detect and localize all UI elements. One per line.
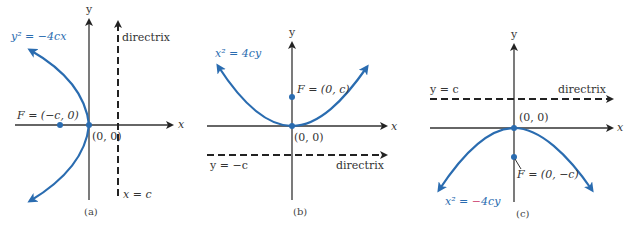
caption: (a) bbox=[84, 206, 98, 217]
focus-point bbox=[289, 94, 295, 100]
parabola-curve-left bbox=[218, 66, 292, 126]
x-axis-label: x bbox=[391, 120, 398, 133]
parabola-curve-lower bbox=[30, 125, 89, 201]
equation-suffix: 4cy bbox=[480, 195, 501, 208]
focus-point bbox=[511, 154, 517, 160]
focus-label: F = (0, c) bbox=[296, 83, 350, 96]
vertex-label: (0, 0) bbox=[519, 111, 549, 124]
panel-c: x y y = c directrix x² = −4cy F = (0, −c… bbox=[429, 28, 624, 219]
equation-prefix: x² = bbox=[445, 195, 472, 208]
equation-label: y² = −4cx bbox=[10, 30, 67, 43]
vertex-label: (0, 0) bbox=[294, 131, 324, 144]
panel-b: x y y = −c directrix x² = 4cy F = (0, c)… bbox=[207, 26, 398, 217]
directrix-label: directrix bbox=[122, 31, 171, 44]
parabola-diagrams: x y directrix x = c y² = −4cx F = (−c, 0… bbox=[0, 0, 634, 235]
vertex-point bbox=[86, 122, 92, 128]
vertex-point bbox=[289, 123, 295, 129]
equation-label: x² = 4cy bbox=[215, 47, 262, 60]
vertex-label: (0, 0) bbox=[92, 130, 122, 143]
x-axis-label: x bbox=[178, 118, 185, 131]
y-axis-label: y bbox=[85, 3, 93, 16]
focus-label: F = (0, −c) bbox=[516, 168, 579, 181]
directrix-equation: y = c bbox=[429, 83, 459, 96]
focus-label: F = (−c, 0) bbox=[16, 109, 79, 122]
equation-minus: − bbox=[472, 195, 481, 208]
equation-label: x² = −4cy bbox=[445, 195, 501, 208]
y-axis-label: y bbox=[288, 26, 296, 39]
directrix-label: directrix bbox=[558, 83, 607, 96]
directrix-label: directrix bbox=[336, 159, 385, 172]
directrix-equation: x = c bbox=[123, 188, 152, 201]
panel-a: x y directrix x = c y² = −4cx F = (−c, 0… bbox=[10, 3, 185, 217]
caption: (c) bbox=[516, 208, 530, 219]
parabola-curve-right bbox=[292, 67, 367, 126]
caption: (b) bbox=[293, 206, 307, 217]
vertex-point bbox=[511, 125, 517, 131]
parabola-curve-left bbox=[439, 128, 514, 190]
y-axis-label: y bbox=[510, 28, 518, 41]
focus-point bbox=[57, 122, 63, 128]
directrix-equation: y = −c bbox=[209, 159, 248, 172]
x-axis-label: x bbox=[617, 121, 624, 134]
